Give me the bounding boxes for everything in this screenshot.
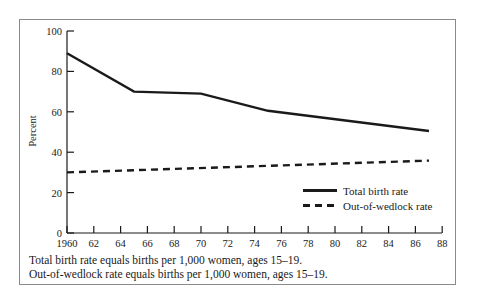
chart-notes: Total birth rate equals births per 1,000… bbox=[29, 254, 328, 281]
x-tick-label-1974: 74 bbox=[249, 238, 260, 249]
x-tick-label-1980: 80 bbox=[330, 238, 341, 249]
x-tick-label-1968: 68 bbox=[169, 238, 180, 249]
line-chart: 0 20 40 60 80 100 Percent bbox=[0, 0, 480, 302]
y-tick-label-80: 80 bbox=[52, 66, 63, 77]
x-tick-label-1966: 66 bbox=[142, 238, 153, 249]
x-tick-label-1978: 78 bbox=[303, 238, 314, 249]
x-tick-label-1962: 62 bbox=[89, 238, 100, 249]
x-tick-label-1986: 86 bbox=[410, 238, 421, 249]
legend-label-out-of-wedlock-rate: Out-of-wedlock rate bbox=[343, 200, 433, 212]
x-tick-label-1976: 76 bbox=[276, 238, 287, 249]
x-tick-label-1972: 72 bbox=[223, 238, 234, 249]
chart-legend: Total birth rate Out-of-wedlock rate bbox=[303, 185, 433, 212]
y-tick-label-40: 40 bbox=[52, 147, 63, 158]
legend-label-total-birth-rate: Total birth rate bbox=[343, 185, 408, 197]
x-tick-label-1960: 1960 bbox=[57, 238, 78, 249]
x-tick-label-1984: 84 bbox=[383, 238, 394, 249]
y-tick-label-20: 20 bbox=[52, 188, 63, 199]
y-axis-ticks bbox=[67, 31, 74, 233]
x-tick-label-1964: 64 bbox=[115, 238, 126, 249]
x-tick-label-1970: 70 bbox=[196, 238, 207, 249]
y-tick-label-60: 60 bbox=[52, 107, 63, 118]
note-line-2: Out-of-wedlock rate equals births per 1,… bbox=[29, 268, 328, 281]
note-line-1: Total birth rate equals births per 1,000… bbox=[29, 254, 302, 267]
series-out-of-wedlock-rate-line bbox=[67, 161, 429, 173]
series-total-birth-rate-line bbox=[67, 53, 429, 131]
y-axis-title: Percent bbox=[27, 115, 38, 147]
y-axis-tick-labels: 0 20 40 60 80 100 bbox=[46, 26, 62, 239]
figure-container: 0 20 40 60 80 100 Percent bbox=[0, 0, 480, 302]
x-axis-tick-labels: 1960 62 64 66 68 70 72 74 76 78 80 82 84… bbox=[57, 238, 448, 249]
x-axis-ticks bbox=[67, 226, 442, 233]
x-tick-label-1988: 88 bbox=[437, 238, 448, 249]
y-tick-label-100: 100 bbox=[46, 26, 62, 37]
x-tick-label-1982: 82 bbox=[357, 238, 368, 249]
